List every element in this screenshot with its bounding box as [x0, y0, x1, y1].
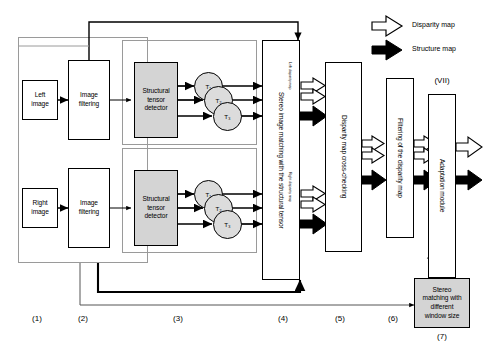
stage-label-3: (3) [163, 314, 193, 323]
stage-label-1: (1) [22, 314, 52, 323]
legend-label-disparity-map: Disparity map [412, 21, 455, 28]
diagram-canvas: Left image Image filtering Right image I… [0, 0, 491, 354]
disparity-map-arrow-icon [372, 16, 402, 36]
legend-label-structure-map: Structure map [412, 45, 456, 52]
structure-map-arrow-icon [372, 40, 402, 60]
stage-label-4: (4) [268, 314, 298, 323]
stage-label-2: (2) [68, 314, 98, 323]
legend-arrows [0, 0, 491, 354]
stage-label-6: (6) [378, 314, 408, 323]
stage-label-7: (7) [427, 332, 457, 341]
stage-label-5: (5) [325, 314, 355, 323]
